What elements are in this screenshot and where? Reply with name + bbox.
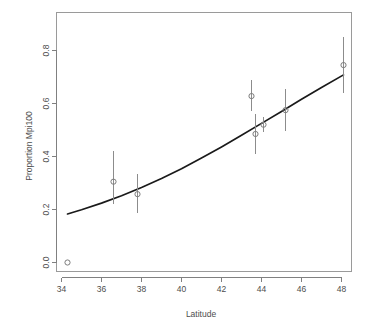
- x-tick-label-1: 36: [97, 284, 107, 294]
- y-tick-label-4: 0.8: [41, 44, 51, 56]
- plot-container: 0.8 0.6 0.4 0.2 0.0 Proportion Mpi100: [0, 0, 368, 330]
- x-tick-label-6: 46: [297, 284, 307, 294]
- y-tick-label-2: 0.4: [41, 150, 51, 162]
- x-tick-label-0: 34: [57, 284, 67, 294]
- x-tick-label-4: 42: [217, 284, 227, 294]
- x-tick-label-7: 48: [337, 284, 347, 294]
- plot-background: [0, 0, 368, 330]
- x-tick-label-2: 38: [137, 284, 147, 294]
- x-tick-label-3: 40: [177, 284, 187, 294]
- y-tick-label-3: 0.6: [41, 97, 51, 109]
- x-tick-label-5: 44: [257, 284, 267, 294]
- y-axis-title: Proportion Mpi100: [24, 111, 34, 181]
- y-tick-label-1: 0.2: [41, 203, 51, 215]
- x-axis-title: Latitude: [186, 309, 217, 319]
- scatter-plot-svg: 0.8 0.6 0.4 0.2 0.0 Proportion Mpi100: [0, 0, 368, 330]
- y-tick-label-0: 0.0: [41, 256, 51, 268]
